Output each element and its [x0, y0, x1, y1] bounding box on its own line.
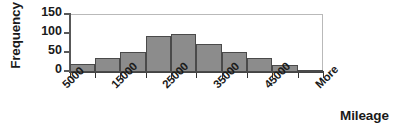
- x-tick-mark-5: [196, 73, 197, 78]
- x-axis-title: Mileage: [340, 108, 389, 123]
- x-tick-label-5000: 5000: [60, 64, 86, 90]
- y-tick-label-100: 100: [24, 25, 62, 38]
- y-axis-title: Frequency: [8, 0, 23, 78]
- bar-7: [247, 58, 272, 72]
- bar-5: [196, 44, 222, 72]
- x-tick-mark-1: [95, 73, 96, 78]
- x-tick-mark-9: [298, 73, 299, 78]
- y-tick-label-150: 150: [24, 6, 62, 19]
- x-tick-mark-3: [146, 73, 147, 78]
- x-tick-mark-7: [247, 73, 248, 78]
- y-axis-tick-labels: 150 100 50 0: [24, 6, 62, 80]
- y-tick-label-50: 50: [24, 44, 62, 57]
- histogram-figure: Frequency 150 100 50 0 5000 15000: [0, 0, 406, 134]
- y-tick-label-0: 0: [24, 63, 62, 76]
- bar-3: [146, 36, 171, 72]
- bar-1: [95, 58, 120, 72]
- bar-9: [298, 70, 323, 72]
